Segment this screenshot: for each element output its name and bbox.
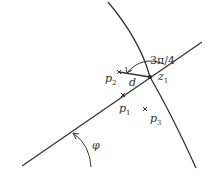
arrow-icon: [126, 67, 132, 73]
d-label: d: [129, 77, 136, 88]
curve: [108, 2, 196, 168]
p3-label: p3: [150, 113, 162, 127]
diagram-canvas: [0, 0, 217, 177]
angle-label-3pi4: 3π/4: [150, 55, 175, 66]
diagram: 3π/4 p2 d z1 p1 p3 φ: [0, 0, 217, 177]
p2-label: p2: [105, 73, 117, 87]
p1-label: p1: [119, 103, 131, 117]
p3-cross: [143, 107, 147, 111]
straight-line: [22, 42, 202, 166]
z1-label: z1: [158, 71, 168, 85]
z1-point: [148, 75, 152, 79]
arrow-icon: [73, 133, 79, 139]
phi-label: φ: [92, 140, 100, 151]
